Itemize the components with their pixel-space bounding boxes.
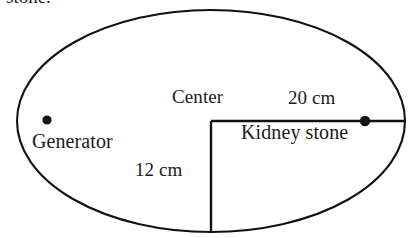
generator-point-icon [42, 115, 51, 124]
center-label: Center [172, 87, 223, 106]
diagram-canvas [0, 0, 413, 238]
horizontal-distance-label: 20 cm [288, 88, 335, 107]
kidney-stone-label: Kidney stone [241, 122, 348, 142]
kidney-stone-point-icon [360, 116, 370, 126]
kidney-stone-ellipse-diagram: stone. Center 20 cm Kidney stone Generat… [0, 0, 413, 238]
generator-label: Generator [32, 131, 113, 151]
vertical-distance-label: 12 cm [135, 160, 182, 179]
